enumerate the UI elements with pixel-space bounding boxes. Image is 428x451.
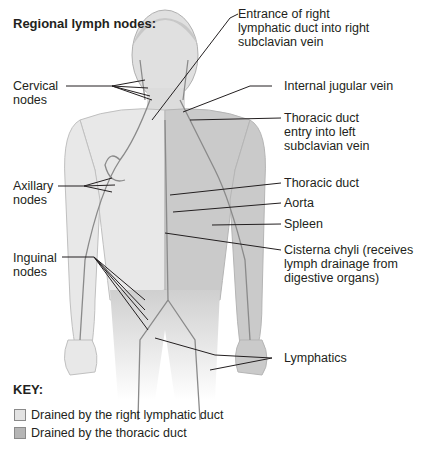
label-line: lymphatic duct into right: [238, 21, 369, 35]
label-line: subclavian vein: [284, 139, 369, 153]
key-item-thoracic-duct: Drained by the thoracic duct: [14, 426, 187, 440]
label-line: Entrance of right: [238, 7, 369, 21]
label-line: Inguinal: [13, 251, 57, 265]
title-regional-lymph-nodes: Regional lymph nodes:: [13, 17, 156, 31]
key-item-label: Drained by the thoracic duct: [31, 426, 187, 440]
body-illustration: [0, 0, 428, 451]
label-text: Thoracic duct: [284, 176, 359, 190]
key-item-label: Drained by the right lymphatic duct: [31, 408, 223, 422]
label-thoracic-duct: Thoracic duct: [284, 176, 359, 190]
label-line: lymph drainage from: [284, 257, 413, 271]
label-thoracic-duct-entry: Thoracic duct entry into left subclavian…: [284, 111, 369, 153]
key-title: KEY:: [13, 382, 43, 397]
label-text: Lymphatics: [284, 351, 347, 365]
label-line: digestive organs): [284, 271, 413, 285]
label-axillary-nodes: Axillary nodes: [13, 179, 53, 207]
label-line: entry into left: [284, 125, 369, 139]
label-inguinal-nodes: Inguinal nodes: [13, 251, 57, 279]
swatch-light-icon: [14, 409, 26, 421]
label-line: nodes: [13, 265, 57, 279]
label-line: Cervical: [13, 79, 58, 93]
swatch-dark-icon: [14, 427, 26, 439]
label-line: Thoracic duct: [284, 111, 369, 125]
label-line: subclavian vein: [238, 35, 369, 49]
label-lymphatics: Lymphatics: [284, 351, 347, 365]
label-line: nodes: [13, 193, 53, 207]
title-text: Regional lymph nodes:: [13, 17, 156, 31]
label-line: Cisterna chyli (receives: [284, 243, 413, 257]
label-line: nodes: [13, 93, 58, 107]
label-spleen: Spleen: [284, 217, 323, 231]
label-entrance-right-lymphatic-duct: Entrance of right lymphatic duct into ri…: [238, 7, 369, 49]
label-internal-jugular-vein: Internal jugular vein: [284, 79, 393, 93]
label-cisterna-chyli: Cisterna chyli (receives lymph drainage …: [284, 243, 413, 285]
label-text: Aorta: [284, 196, 314, 210]
label-text: Internal jugular vein: [284, 79, 393, 93]
label-line: Axillary: [13, 179, 53, 193]
label-aorta: Aorta: [284, 196, 314, 210]
label-cervical-nodes: Cervical nodes: [13, 79, 58, 107]
key-item-right-lymphatic-duct: Drained by the right lymphatic duct: [14, 408, 223, 422]
label-text: Spleen: [284, 217, 323, 231]
